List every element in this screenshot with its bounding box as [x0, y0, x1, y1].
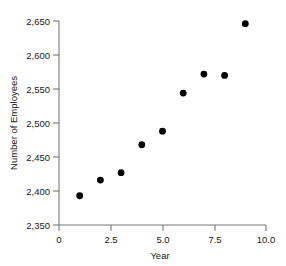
data-point	[180, 90, 187, 97]
chart-canvas: 2,650 2,600 2,550 2,500 2,450 2,400 2,35…	[0, 0, 286, 266]
x-tick-label: 10.0	[257, 234, 276, 245]
y-tick-label: 2,450	[26, 152, 50, 163]
y-axis-tick-labels: 2,650 2,600 2,550 2,500 2,450 2,400 2,35…	[26, 16, 50, 231]
x-axis-title: Year	[150, 250, 169, 261]
y-tick-label: 2,650	[26, 16, 50, 27]
data-point	[138, 141, 145, 148]
y-tick-label: 2,550	[26, 84, 50, 95]
y-tick-label: 2,600	[26, 50, 50, 61]
x-tick-label: 7.5	[208, 234, 221, 245]
data-point	[97, 177, 104, 184]
x-axis-ticks	[59, 225, 266, 231]
scatter-plot-figure: 2,650 2,600 2,550 2,500 2,450 2,400 2,35…	[0, 0, 286, 266]
data-point	[159, 128, 166, 135]
y-axis-ticks	[53, 21, 59, 225]
x-tick-label: 5.0	[156, 234, 169, 245]
data-point	[118, 169, 125, 176]
y-axis-title: Number of Employees	[8, 76, 19, 170]
y-tick-label: 2,350	[26, 220, 50, 231]
data-point	[221, 72, 228, 79]
y-tick-label: 2,500	[26, 118, 50, 129]
x-tick-label: 0	[56, 234, 61, 245]
data-point	[201, 71, 208, 78]
data-point	[242, 20, 249, 27]
data-point-group	[76, 20, 248, 199]
x-tick-label: 2.5	[104, 234, 117, 245]
x-axis-tick-labels: 0 2.5 5.0 7.5 10.0	[56, 234, 275, 245]
data-point	[76, 192, 83, 199]
y-tick-label: 2,400	[26, 186, 50, 197]
